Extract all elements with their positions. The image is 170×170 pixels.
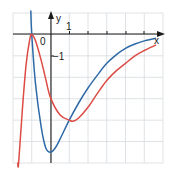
- blue-curve: [31, 11, 156, 152]
- y-axis-label: y: [56, 13, 61, 24]
- red-curve: [18, 34, 156, 167]
- origin-label: 0: [40, 36, 46, 47]
- x-tick-1-label: 1: [66, 21, 72, 32]
- y-tick-minus1-label: −1: [53, 51, 65, 62]
- function-graph: x y 0 1 −1: [0, 0, 170, 170]
- x-axis-label: x: [154, 35, 159, 46]
- y-axis-arrow-icon: [48, 11, 54, 19]
